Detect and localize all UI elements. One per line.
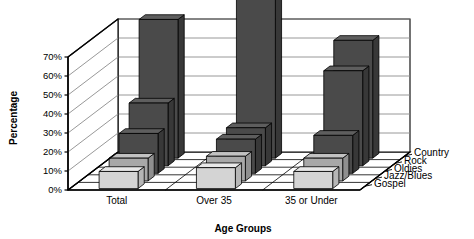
bar-gospel-over-35 bbox=[196, 163, 241, 189]
y-tick-label: 0% bbox=[48, 184, 62, 195]
y-tick-label: 10% bbox=[43, 165, 63, 176]
y-tick-label: 20% bbox=[43, 146, 63, 157]
x-axis-title: Age Groups bbox=[214, 223, 272, 234]
y-axis-title: Percentage bbox=[8, 91, 19, 145]
legend-label-gospel: Gospel bbox=[374, 178, 406, 189]
x-category-label: Total bbox=[106, 195, 127, 206]
y-tick-label: 60% bbox=[43, 70, 63, 81]
bar-gospel-total bbox=[99, 167, 144, 189]
chart-container: 0%10%20%30%40%50%60%70% TotalOver 3535 o… bbox=[0, 0, 474, 239]
x-category-label: Over 35 bbox=[196, 195, 232, 206]
y-tick-label: 30% bbox=[43, 127, 63, 138]
bar-chart-3d: 0%10%20%30%40%50%60%70% TotalOver 3535 o… bbox=[0, 0, 474, 239]
y-tick-label: 40% bbox=[43, 108, 63, 119]
bar-gospel-35-or-under bbox=[294, 167, 339, 189]
x-category-label: 35 or Under bbox=[285, 195, 338, 206]
y-tick-label: 70% bbox=[43, 51, 63, 62]
y-tick-label: 50% bbox=[43, 89, 63, 100]
